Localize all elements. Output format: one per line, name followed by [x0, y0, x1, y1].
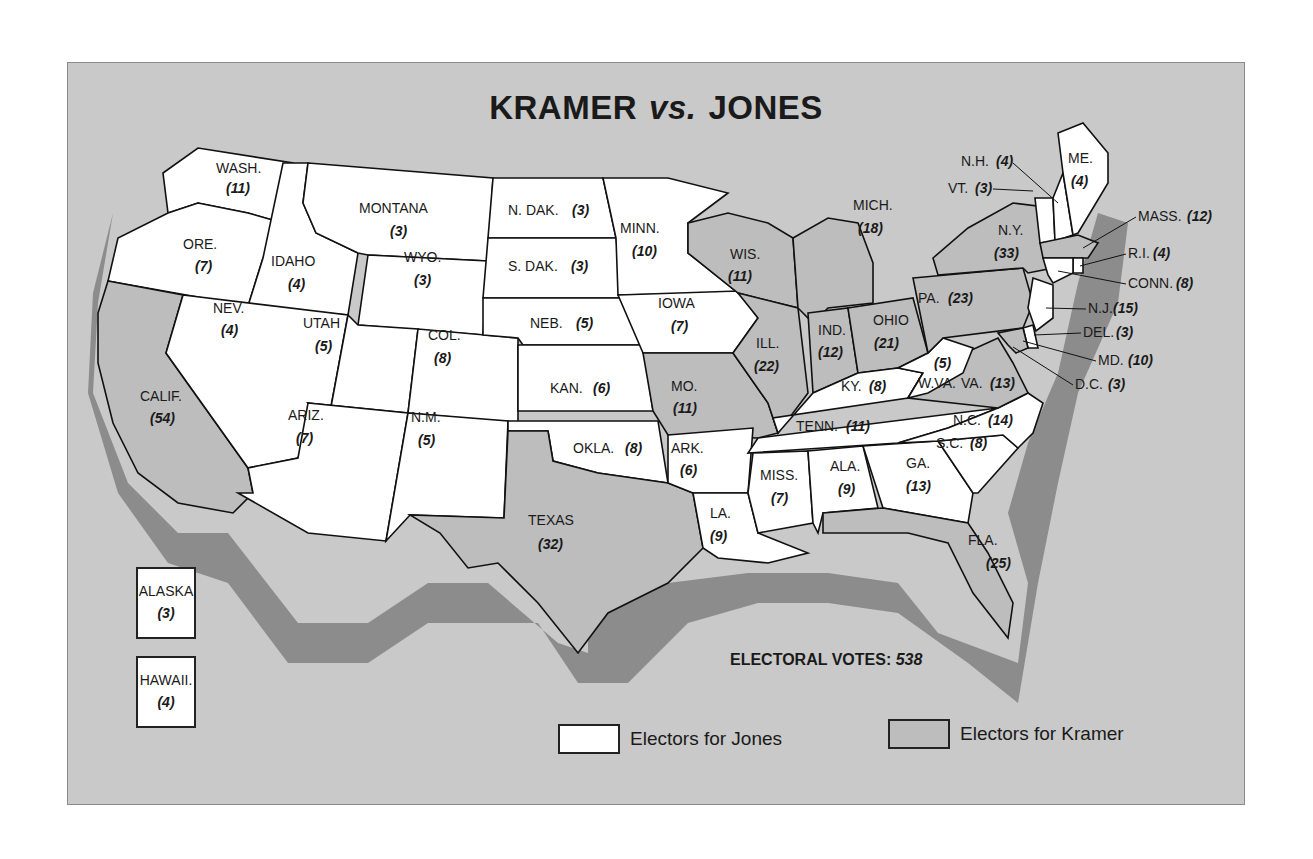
state-nj[interactable]	[1028, 278, 1053, 331]
votes-ala: (9)	[838, 481, 855, 497]
label-conn: CONN.	[1128, 275, 1173, 291]
votes-pa: (23)	[948, 290, 973, 306]
legend-swatch-jones	[558, 724, 620, 754]
label-sdak: S. DAK.	[508, 258, 558, 274]
votes-texas: (32)	[538, 536, 563, 552]
label-ohio: OHIO	[873, 312, 909, 328]
label-del: DEL.	[1083, 324, 1114, 340]
map-panel: KRAMERvs.JONES	[67, 62, 1245, 805]
label-ore: ORE.	[183, 236, 217, 252]
label-wash: WASH.	[216, 160, 261, 176]
state-ny[interactable]	[933, 203, 1053, 275]
label-kan: KAN.	[550, 380, 583, 396]
votes-col: (8)	[434, 350, 451, 366]
votes-nj: (15)	[1113, 300, 1138, 316]
us-map: WASH. (11) ORE. (7) CALIF. (54) IDAHO (4…	[68, 63, 1246, 806]
votes-vt: (3)	[975, 180, 992, 196]
label-texas: TEXAS	[528, 512, 574, 528]
label-miss: MISS.	[760, 467, 798, 483]
state-conn[interactable]	[1043, 258, 1073, 283]
label-ri: R.I.	[1128, 245, 1150, 261]
votes-ny: (33)	[994, 245, 1019, 261]
label-ny: N.Y.	[998, 222, 1023, 238]
state-wyo[interactable]	[358, 255, 488, 335]
votes-nev: (4)	[221, 322, 238, 338]
votes-wis: (11)	[728, 268, 752, 284]
label-dc: D.C.	[1075, 376, 1103, 392]
votes-ndak: (3)	[572, 202, 589, 218]
votes-ark: (6)	[680, 462, 697, 478]
label-md: MD.	[1098, 352, 1124, 368]
label-nc: N.C.	[953, 412, 981, 428]
votes-calif: (54)	[150, 410, 175, 426]
label-wis: WIS.	[730, 246, 760, 262]
label-wva: W.VA.	[918, 375, 956, 391]
label-fla: FLA.	[968, 532, 998, 548]
inset-hawaii[interactable]: HAWAII. (4)	[136, 656, 196, 728]
label-wyo: WYO.	[404, 249, 441, 265]
label-montana: MONTANA	[359, 200, 429, 216]
label-ga: GA.	[906, 455, 930, 471]
votes-sdak: (3)	[571, 258, 588, 274]
leader-nh	[1013, 163, 1058, 203]
label-mo: MO.	[671, 378, 697, 394]
label-ark: ARK.	[671, 440, 704, 456]
votes-ohio: (21)	[874, 335, 899, 351]
label-mass: MASS.	[1138, 208, 1182, 224]
label-idaho: IDAHO	[271, 253, 315, 269]
votes-wyo: (3)	[414, 272, 431, 288]
votes-idaho: (4)	[288, 276, 305, 292]
label-me: ME.	[1068, 150, 1093, 166]
label-ndak: N. DAK.	[508, 202, 559, 218]
label-calif: CALIF.	[140, 388, 182, 404]
label-ill: ILL.	[756, 335, 779, 351]
votes-miss: (7)	[771, 490, 788, 506]
votes-dc: (3)	[1108, 376, 1125, 392]
label-pa: PA.	[918, 290, 940, 306]
votes-minn: (10)	[632, 243, 657, 259]
electoral-total-value: 538	[896, 651, 923, 668]
state-ark[interactable]	[668, 428, 753, 493]
label-neb: NEB.	[530, 315, 563, 331]
votes-ri: (4)	[1153, 245, 1170, 261]
votes-nc: (14)	[988, 412, 1013, 428]
label-iowa: IOWA	[658, 295, 695, 311]
legend-kramer: Electors for Kramer	[888, 719, 1124, 749]
electoral-total: ELECTORAL VOTES: 538	[730, 651, 922, 669]
votes-iowa: (7)	[671, 318, 688, 334]
label-sc: S.C.	[936, 435, 963, 451]
legend-label-jones: Electors for Jones	[630, 728, 782, 750]
label-hawaii: HAWAII.	[140, 672, 193, 688]
votes-montana: (3)	[390, 223, 407, 239]
label-okla: OKLA.	[573, 440, 614, 456]
inset-alaska[interactable]: ALASKA (3)	[136, 567, 196, 639]
label-vt: VT.	[948, 180, 968, 196]
votes-alaska: (3)	[138, 605, 194, 621]
label-utah: UTAH	[303, 315, 340, 331]
votes-tenn: (11)	[846, 418, 870, 434]
label-ky: KY.	[841, 378, 862, 394]
votes-la: (9)	[710, 528, 727, 544]
label-col: COL.	[428, 327, 461, 343]
label-nev: NEV.	[213, 300, 244, 316]
legend-label-kramer: Electors for Kramer	[960, 723, 1124, 745]
label-ala: ALA.	[830, 458, 860, 474]
votes-kan: (6)	[593, 380, 610, 396]
votes-va: (13)	[990, 375, 1015, 391]
votes-mich: (18)	[858, 220, 883, 236]
votes-me: (4)	[1071, 173, 1088, 189]
votes-nm: (5)	[418, 432, 435, 448]
label-alaska: ALASKA	[139, 583, 193, 599]
votes-conn: (8)	[1176, 275, 1193, 291]
label-va: VA.	[961, 375, 983, 391]
votes-ga: (13)	[906, 478, 931, 494]
votes-del: (3)	[1116, 324, 1133, 340]
votes-md: (10)	[1128, 352, 1153, 368]
leader-vt	[993, 189, 1033, 191]
label-la: LA.	[710, 505, 731, 521]
votes-ky: (8)	[869, 378, 886, 394]
label-nj: N.J.	[1088, 300, 1113, 316]
state-kan[interactable]	[518, 345, 653, 411]
electoral-total-label: ELECTORAL VOTES:	[730, 651, 891, 668]
legend-jones: Electors for Jones	[558, 724, 782, 754]
